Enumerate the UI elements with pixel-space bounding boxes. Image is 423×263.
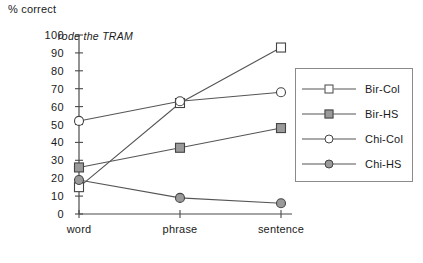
- legend-sample: [302, 155, 356, 173]
- data-point-marker: [75, 116, 84, 125]
- series-line: [79, 48, 281, 188]
- legend-item[interactable]: Bir-HS: [296, 102, 414, 126]
- data-point-marker: [277, 199, 286, 208]
- legend-marker-icon: [325, 135, 334, 144]
- data-point-marker: [277, 43, 286, 52]
- legend-marker-icon: [325, 110, 334, 119]
- chart-figure: % correct rode the TRAM 0102030405060708…: [0, 0, 423, 263]
- legend-label: Chi-Col: [365, 133, 403, 145]
- legend-item[interactable]: Chi-Col: [296, 127, 414, 151]
- legend-sample: [302, 105, 356, 123]
- data-point-marker: [277, 124, 286, 133]
- chart-legend: Bir-ColBir-HSChi-ColChi-HS: [295, 68, 413, 182]
- data-point-marker: [277, 88, 286, 97]
- data-point-marker: [176, 97, 185, 106]
- legend-marker-icon: [325, 85, 334, 94]
- legend-sample: [302, 130, 356, 148]
- legend-item[interactable]: Chi-HS: [296, 152, 414, 176]
- legend-label: Bir-Col: [365, 83, 400, 95]
- legend-sample: [302, 80, 356, 98]
- data-point-marker: [75, 163, 84, 172]
- legend-label: Bir-HS: [365, 108, 399, 120]
- legend-item[interactable]: Bir-Col: [296, 77, 414, 101]
- data-point-marker: [176, 143, 185, 152]
- legend-marker-icon: [325, 160, 334, 169]
- data-point-marker: [176, 193, 185, 202]
- data-point-marker: [75, 175, 84, 184]
- legend-label: Chi-HS: [365, 158, 402, 170]
